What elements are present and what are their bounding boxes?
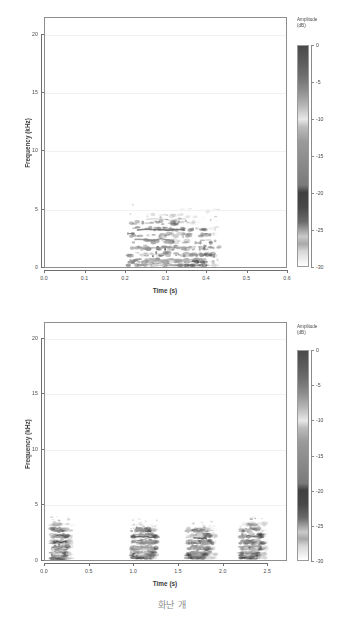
x-axis-tick-label: 0.5 <box>85 568 93 574</box>
x-axis-tick <box>125 270 126 273</box>
gridline-horizontal <box>45 151 286 152</box>
colorbar-tick-label: -30 <box>316 264 324 270</box>
colorbar-tick-label: -10 <box>316 417 324 423</box>
x-axis-tick <box>89 563 90 566</box>
x-axis-tick-label: 0.4 <box>202 275 210 281</box>
colorbar-tick <box>311 385 314 386</box>
colorbar-tick-label: -20 <box>316 488 324 494</box>
x-axis-tick <box>223 563 224 566</box>
x-axis-tick-label: 1.0 <box>130 568 138 574</box>
colorbar-tick-label: -30 <box>316 558 324 564</box>
colorbar-tick-label: -10 <box>316 116 324 122</box>
spectrogram-figure-bottom: 0.00.51.01.52.02.505101520 Time (s) Freq… <box>0 310 344 600</box>
y-axis-tick-label: 15 <box>22 390 38 396</box>
colorbar-tick <box>311 420 314 421</box>
x-axis-tick-label: 0.3 <box>162 275 170 281</box>
y-axis-tick-label: 0 <box>22 264 38 270</box>
x-axis-tick-label: 0.1 <box>81 275 89 281</box>
colorbar-title-line1: Amplitude <box>297 324 317 330</box>
x-axis-title-top: Time (s) <box>153 287 177 294</box>
colorbar-tick-label: -5 <box>316 79 321 85</box>
colorbar-tick <box>311 119 314 120</box>
plot-area-top[interactable] <box>44 17 287 268</box>
gridline-horizontal <box>45 210 286 211</box>
figure-caption: 화난 개 <box>0 598 344 611</box>
y-axis-tick-label: 5 <box>22 206 38 212</box>
colorbar-tick-label: 0 <box>316 42 319 48</box>
y-axis-tick-label: 15 <box>22 89 38 95</box>
y-axis-tick-label: 20 <box>22 31 38 37</box>
colorbar-tick-label: -25 <box>316 523 324 529</box>
spectrogram-image-bottom <box>45 323 286 560</box>
y-axis-tick <box>41 504 44 505</box>
colorbar-gradient-top <box>297 45 309 267</box>
x-axis-tick <box>44 563 45 566</box>
colorbar-top <box>297 45 309 267</box>
y-axis-title-top: Frequency (kHz) <box>24 118 31 168</box>
x-axis-line <box>44 563 267 564</box>
colorbar-tick <box>311 456 314 457</box>
y-axis-tick <box>41 150 44 151</box>
colorbar-bottom <box>297 350 309 561</box>
colorbar-title-line1: Amplitude <box>297 17 317 23</box>
gridline-horizontal <box>45 394 286 395</box>
y-axis-tick <box>41 34 44 35</box>
colorbar-tick <box>311 156 314 157</box>
y-axis-tick <box>41 209 44 210</box>
colorbar-tick-label: -5 <box>316 382 321 388</box>
colorbar-tick <box>311 561 314 562</box>
x-axis-tick-label: 2.0 <box>219 568 227 574</box>
colorbar-tick <box>311 82 314 83</box>
gridline-horizontal <box>45 339 286 340</box>
y-axis-tick-label: 0 <box>22 557 38 563</box>
y-axis-tick <box>41 92 44 93</box>
colorbar-title-line2: (dB) <box>297 330 317 336</box>
colorbar-tick <box>311 526 314 527</box>
colorbar-tick <box>311 350 314 351</box>
x-axis-tick-label: 0.2 <box>121 275 129 281</box>
gridline-horizontal <box>45 35 286 36</box>
x-axis-tick <box>267 563 268 566</box>
x-axis-tick <box>85 270 86 273</box>
colorbar-tick <box>311 193 314 194</box>
spectrogram-figure-top: 0.00.10.20.30.40.50.605101520 Time (s) F… <box>0 0 344 310</box>
y-axis-tick <box>41 338 44 339</box>
y-axis-title-bottom: Frequency (kHz) <box>24 419 31 469</box>
x-axis-tick-label: 0.5 <box>243 275 251 281</box>
y-axis-tick-label: 5 <box>22 501 38 507</box>
gridline-horizontal <box>45 93 286 94</box>
colorbar-tick <box>311 230 314 231</box>
colorbar-tick-label: -25 <box>316 227 324 233</box>
colorbar-tick-label: -15 <box>316 453 324 459</box>
x-axis-tick-label: 2.5 <box>264 568 272 574</box>
colorbar-title-top: Amplitude (dB) <box>297 17 317 28</box>
x-axis-tick <box>287 270 288 273</box>
x-axis-tick-label: 1.5 <box>174 568 182 574</box>
x-axis-title-bottom: Time (s) <box>153 580 177 587</box>
colorbar-gradient-bottom <box>297 350 309 561</box>
x-axis-tick <box>44 270 45 273</box>
spectrogram-image-top <box>45 18 286 267</box>
colorbar-tick <box>311 267 314 268</box>
x-axis-tick <box>133 563 134 566</box>
x-axis-tick <box>206 270 207 273</box>
y-axis-tick <box>41 560 44 561</box>
colorbar-title-line2: (dB) <box>297 23 317 29</box>
colorbar-tick-label: -15 <box>316 153 324 159</box>
colorbar-tick-label: 0 <box>316 347 319 353</box>
y-axis-line <box>41 339 42 561</box>
x-axis-tick <box>178 563 179 566</box>
y-axis-tick <box>41 449 44 450</box>
colorbar-title-bottom: Amplitude (dB) <box>297 324 317 335</box>
plot-area-bottom[interactable] <box>44 322 287 561</box>
gridline-horizontal <box>45 450 286 451</box>
colorbar-tick <box>311 491 314 492</box>
colorbar-tick <box>311 45 314 46</box>
x-axis-tick <box>247 270 248 273</box>
gridline-horizontal <box>45 505 286 506</box>
x-axis-tick-label: 0.6 <box>283 275 291 281</box>
x-axis-tick-label: 0.0 <box>40 275 48 281</box>
x-axis-tick-label: 0.0 <box>40 568 48 574</box>
y-axis-tick <box>41 393 44 394</box>
x-axis-tick <box>166 270 167 273</box>
